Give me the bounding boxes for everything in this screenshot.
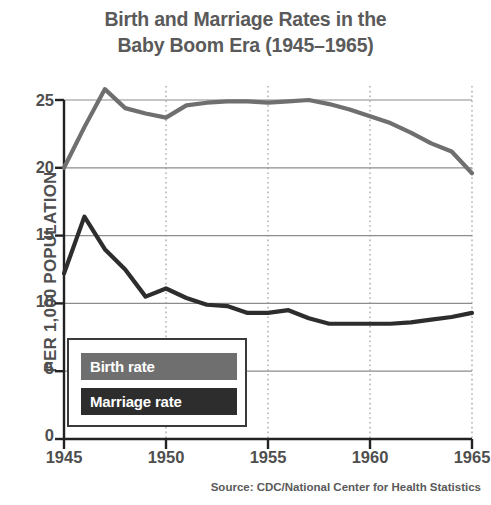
chart-legend: Birth rate Marriage rate	[67, 338, 247, 427]
legend-item-marriage-rate: Marriage rate	[81, 388, 237, 415]
plot-area	[0, 0, 491, 505]
source-note: Source: CDC/National Center for Health S…	[211, 481, 481, 493]
legend-label-marriage-rate: Marriage rate	[81, 393, 182, 410]
legend-label-birth-rate: Birth rate	[81, 358, 155, 375]
series-line-birth-rate	[64, 89, 472, 173]
chart-figure: Birth and Marriage Rates in the Baby Boo…	[0, 0, 491, 505]
legend-item-birth-rate: Birth rate	[81, 353, 237, 380]
